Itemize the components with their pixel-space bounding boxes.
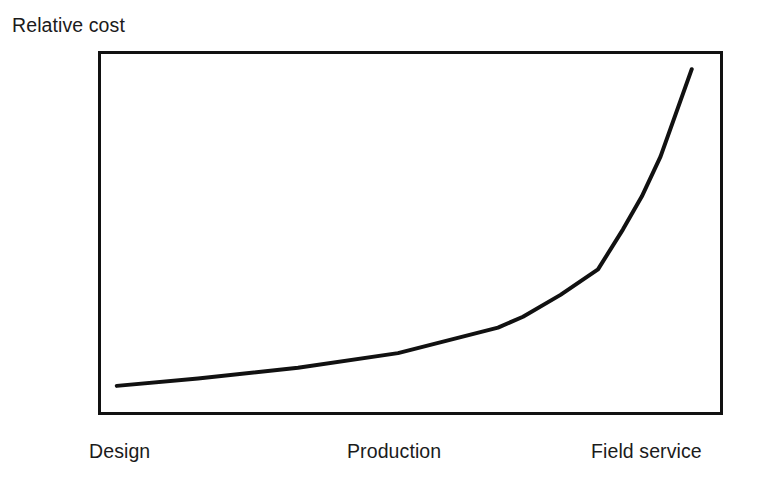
plot-area xyxy=(98,51,723,415)
y-axis-label: Relative cost xyxy=(12,13,125,38)
chart-figure: Relative cost Design Production Field se… xyxy=(0,0,761,486)
x-axis-label-field-service: Field service xyxy=(591,438,702,464)
x-axis-label-production: Production xyxy=(347,438,441,464)
cost-curve-polyline xyxy=(117,69,692,386)
cost-curve-series xyxy=(98,51,723,415)
x-axis-label-design: Design xyxy=(89,438,150,464)
